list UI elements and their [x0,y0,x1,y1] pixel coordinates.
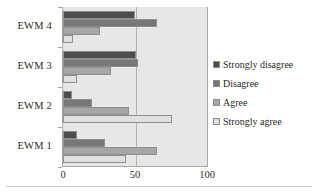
bar [63,139,105,147]
bottom-divider [6,186,312,187]
y-axis-label: EWM 2 [0,100,52,111]
chart-legend: Strongly disagreeDisagreeAgreeStrongly a… [213,55,317,131]
bar [63,27,100,35]
bar [63,11,135,19]
bar [63,107,129,115]
y-axis-label: EWM 3 [0,60,52,71]
legend-label: Strongly disagree [223,60,293,70]
bar-group [63,87,207,127]
bar [63,35,73,43]
legend-label: Agree [223,98,247,108]
legend-label: Disagree [223,79,259,89]
bar [63,147,157,155]
legend-swatch-icon [213,99,220,106]
y-axis-tick [58,47,62,48]
bar [63,131,77,139]
legend-swatch-icon [213,80,220,87]
bar [63,75,77,83]
bar [63,155,126,163]
bar-group [63,7,207,47]
bar [63,99,92,107]
x-axis-label: 50 [115,169,155,180]
x-axis: 050100 [0,169,318,185]
y-axis-tick [58,7,62,8]
bar [63,19,157,27]
legend-item[interactable]: Agree [213,93,317,112]
plot-area [62,7,208,167]
legend-item[interactable]: Disagree [213,74,317,93]
y-axis-label: EWM 1 [0,140,52,151]
legend-swatch-icon [213,61,220,68]
y-axis-label: EWM 4 [0,20,52,31]
y-axis-tick [58,127,62,128]
bar [63,67,111,75]
legend-label: Strongly agree [223,117,282,127]
y-axis-tick [58,167,62,168]
bar [63,51,136,59]
bar-group [63,47,207,87]
bar [63,59,138,67]
bar-chart: EWM 4EWM 3EWM 2EWM 1 050100 Strongly dis… [0,0,318,192]
bar [63,115,172,123]
legend-item[interactable]: Strongly agree [213,112,317,131]
bar-group [63,127,207,167]
bar [63,91,72,99]
y-axis: EWM 4EWM 3EWM 2EWM 1 [0,7,58,167]
x-axis-label: 100 [187,169,227,180]
y-axis-tick [58,87,62,88]
x-axis-label: 0 [43,169,83,180]
legend-swatch-icon [213,118,220,125]
legend-item[interactable]: Strongly disagree [213,55,317,74]
